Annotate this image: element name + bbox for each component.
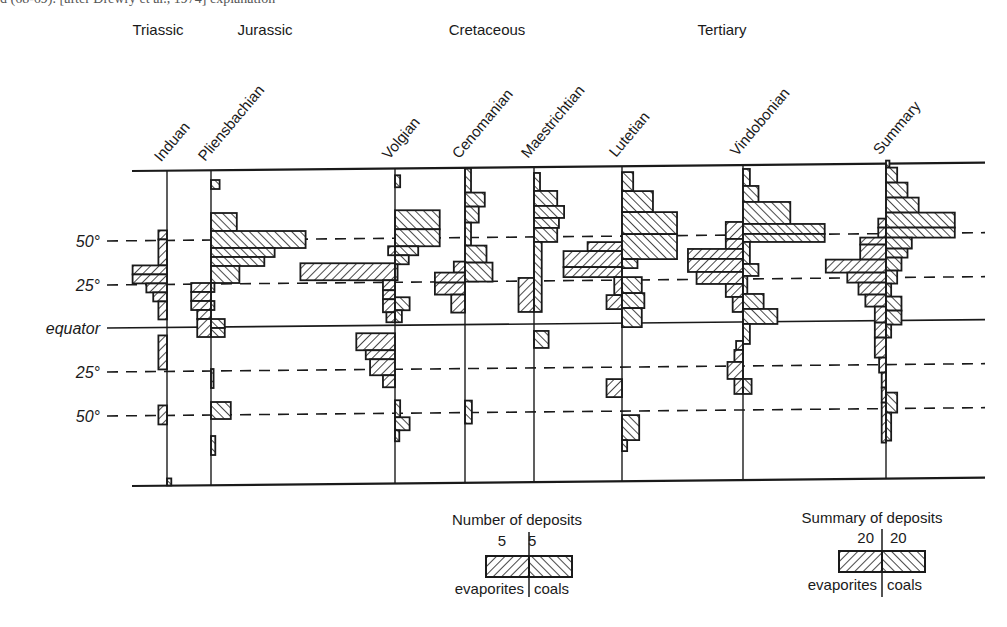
evaporite-bar (875, 323, 886, 338)
evaporite-bar (158, 230, 167, 239)
evaporite-bar (153, 292, 167, 301)
coal-bar (622, 259, 637, 268)
latitude-label: equator (46, 320, 101, 337)
legend-stage-title: Number of deposits (452, 511, 582, 528)
deposit-latitude-diagram: TriassicJurassicCretaceousTertiary Indua… (0, 0, 1007, 627)
stage-label: Maestrichtian (517, 82, 587, 161)
coal-bar (886, 271, 897, 284)
coal-bar (886, 198, 919, 213)
coal-bar (743, 169, 750, 186)
stage-label: Vindobonian (726, 84, 792, 159)
column-vindobonian (688, 169, 825, 394)
coal-bar (211, 402, 231, 419)
coal-bar (465, 207, 479, 223)
evaporite-bar (191, 292, 211, 301)
evaporite-bar (733, 297, 743, 312)
coal-bar (743, 264, 758, 276)
legend-summary-left-label: evaporites (808, 576, 877, 593)
coal-bar (743, 186, 758, 202)
coal-bar (886, 168, 897, 183)
latitude-label: 25° (75, 364, 101, 381)
latitude-label: 50° (76, 233, 101, 250)
coal-bar (622, 308, 642, 327)
period-label: Jurassic (237, 21, 293, 38)
evaporite-bar (435, 273, 465, 283)
coal-bar (211, 231, 306, 248)
evaporite-bar (300, 263, 395, 280)
coal-bar (743, 234, 825, 242)
column-maestrichtian (519, 173, 565, 348)
evaporite-bar (734, 350, 743, 362)
evaporite-bar (726, 239, 743, 249)
coal-bar (534, 242, 542, 312)
evaporite-bar (197, 310, 211, 319)
legend-summary-right-label: coals (887, 576, 922, 593)
evaporite-bar (519, 278, 534, 312)
coal-bar (886, 258, 901, 271)
coal-bar (534, 173, 540, 191)
evaporite-bar (366, 350, 395, 359)
coal-bar (622, 212, 677, 234)
legend-summary-title: Summary of deposits (802, 509, 943, 526)
coal-bar (465, 246, 487, 263)
coal-bar (743, 324, 750, 344)
evaporite-bar (564, 267, 622, 277)
legend-evaporite-swatch (486, 556, 529, 577)
coal-bar (211, 180, 220, 189)
coal-bar (886, 213, 955, 228)
legend-stage-left-value: 5 (498, 532, 506, 549)
stage-label: Summary (869, 97, 924, 157)
coal-bar (622, 234, 677, 259)
evaporite-bar (847, 273, 886, 283)
evaporite-bar (865, 295, 886, 307)
coal-bar (395, 175, 400, 187)
coal-bar (211, 319, 225, 328)
stage-label: Induan (150, 118, 193, 164)
coal-bar (211, 328, 225, 337)
evaporite-bar (191, 283, 211, 292)
coal-bar (743, 242, 750, 264)
coal-bar (622, 440, 627, 451)
frame-top-line (132, 163, 985, 171)
coal-bar (886, 284, 891, 297)
evaporite-bar (728, 362, 743, 379)
coal-bar (534, 218, 559, 228)
coal-bar (395, 310, 402, 322)
period-label: Triassic (132, 21, 184, 38)
evaporite-bar (860, 245, 886, 260)
latitude-line-equator (107, 320, 985, 328)
stage-label: Lutetian (605, 108, 652, 160)
coal-bar (886, 393, 897, 413)
evaporite-bar (386, 312, 395, 322)
evaporite-bar (383, 280, 395, 290)
evaporite-bar (858, 283, 886, 295)
legend-summary-evaporite-swatch (839, 551, 882, 572)
evaporite-bar (133, 274, 167, 283)
evaporite-bar (356, 333, 395, 350)
coal-bar (622, 415, 639, 440)
coal-bar (743, 379, 752, 394)
evaporite-bar (736, 341, 743, 350)
coal-bar (211, 257, 264, 266)
latitude-labels: 50°25°equator25°50° (46, 233, 101, 425)
evaporite-bar (826, 260, 886, 273)
evaporite-bar (607, 379, 622, 397)
stage-labels: InduanPliensbachianVolgianCenomanianMaes… (150, 81, 924, 164)
coal-bar (622, 277, 642, 293)
coal-bar (395, 400, 400, 417)
evaporite-bar (435, 283, 465, 295)
coal-bar (211, 213, 237, 231)
coal-bar (534, 331, 549, 348)
column-induan (133, 230, 172, 485)
evaporite-bar (133, 265, 167, 274)
coal-bar (622, 172, 633, 191)
evaporite-bar (146, 283, 167, 292)
latitude-line-25 (107, 364, 985, 372)
coal-bar (465, 193, 485, 207)
evaporite-bar (688, 259, 743, 272)
coal-bar (743, 202, 790, 224)
evaporite-bar (688, 249, 743, 259)
evaporite-bar (726, 222, 743, 239)
legend-summary-right-value: 20 (890, 529, 907, 546)
evaporite-bar (383, 299, 395, 312)
